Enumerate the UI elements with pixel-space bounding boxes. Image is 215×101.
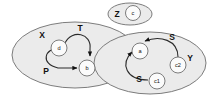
node-c2: c2	[170, 57, 186, 73]
node-b: b	[79, 60, 95, 76]
set-label-z: Z	[114, 9, 119, 19]
diagram-canvas: d b a c2 c1 c X Y Z T P S S	[0, 0, 215, 101]
node-label-c2: c2	[175, 62, 181, 68]
edge-label-s-upper: S	[169, 32, 175, 42]
node-label-d: d	[57, 45, 60, 51]
node-label-c: c	[132, 10, 135, 16]
node-a: a	[132, 43, 148, 59]
edge-label-t: T	[77, 23, 83, 33]
node-c1: c1	[149, 73, 165, 89]
node-d: d	[51, 40, 67, 56]
node-c: c	[126, 6, 141, 21]
set-label-x: X	[39, 30, 45, 40]
node-label-b: b	[85, 65, 88, 71]
edge-label-s-lower: S	[136, 74, 142, 84]
set-graph-diagram: d b a c2 c1 c X Y Z T P S S	[0, 0, 215, 101]
node-label-c1: c1	[154, 78, 160, 84]
edge-label-p: P	[43, 66, 49, 76]
set-label-y: Y	[187, 53, 193, 63]
